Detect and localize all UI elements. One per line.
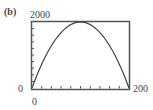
- x-axis-ticks: [42, 86, 120, 89]
- parabola-curve: [32, 22, 129, 88]
- plot-area: [0, 0, 153, 110]
